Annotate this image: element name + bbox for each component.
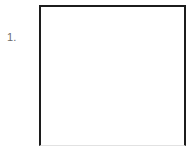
answer-box-interior[interactable] xyxy=(41,7,184,145)
item-number-label: 1. xyxy=(7,30,33,44)
answer-box[interactable] xyxy=(39,5,186,146)
worksheet-item: 1. xyxy=(0,0,194,153)
